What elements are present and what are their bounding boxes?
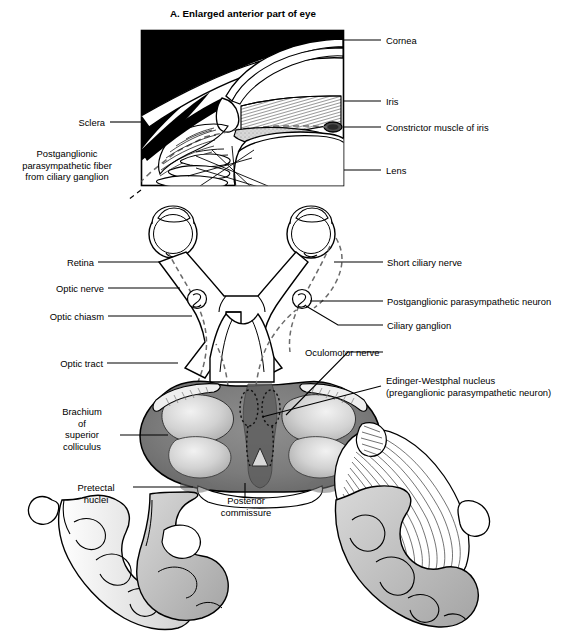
panel-a-artwork [132, 30, 348, 190]
label-retina: Retina [18, 257, 94, 269]
label-constrictor-muscle-of-iris: Constrictor muscle of iris [386, 122, 489, 134]
label-postganglionic-parasympathetic-neuron: Postganglionic parasympathetic neuron [387, 296, 551, 308]
label-edinger-westphal-nucleus: Edinger-Westphal nucleus (preganglionic … [386, 375, 551, 398]
label-sclera: Sclera [20, 117, 105, 129]
label-short-ciliary-nerve: Short ciliary nerve [387, 257, 462, 269]
label-lens: Lens [386, 165, 406, 177]
panel-a-title: A. Enlarged anterior part of eye [141, 8, 345, 19]
pupillary-light-reflex-figure: A. Enlarged anterior part of eye [0, 0, 567, 643]
label-cornea: Cornea [386, 35, 417, 47]
label-postganglionic-parasympathetic-fiber: Postganglionic parasympathetic fiber fro… [8, 148, 126, 183]
label-ciliary-ganglion: Ciliary ganglion [387, 320, 451, 332]
label-optic-tract: Optic tract [18, 358, 103, 370]
label-pretectal-nuclei: Pretectal nuclei [62, 482, 130, 505]
ciliary-ganglion-right [293, 290, 312, 309]
left-eyeball [149, 206, 197, 258]
ciliary-ganglion-left [188, 290, 207, 309]
label-optic-nerve: Optic nerve [18, 283, 104, 295]
label-oculomotor-nerve: Oculomotor nerve [305, 347, 380, 359]
label-brachium-of-superior-colliculus: Brachium of superior colliculus [48, 406, 116, 452]
label-iris: Iris [386, 96, 399, 108]
label-posterior-commissure: Posterior commissure [202, 495, 290, 518]
label-optic-chiasm: Optic chiasm [18, 311, 104, 323]
